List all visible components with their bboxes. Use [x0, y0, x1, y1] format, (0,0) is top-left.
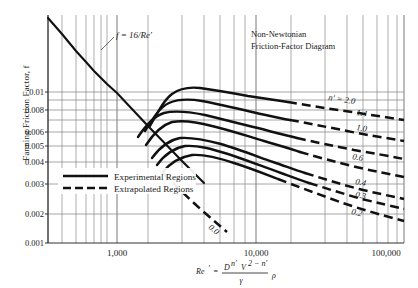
x-tick-label: 100,000 [371, 248, 401, 258]
chart-title-line2: Friction-Factor Diagram [251, 41, 336, 51]
x-axis-ticks: 1,000 10,000 100,000 [107, 248, 401, 258]
x-axis-formula: Re ′ = D n′ V 2 − n′ γ ρ [195, 259, 276, 285]
formula-numerator-D-exponent: n′ [231, 259, 237, 268]
formula-trailing-rho: ρ [271, 271, 276, 280]
curve-label-n-2-0: n′ = 2.0 [328, 92, 357, 106]
x-tick-label: 1,000 [107, 248, 128, 258]
formula-numerator-V-exponent: 2 − n′ [248, 259, 267, 268]
formula-equals: = [213, 267, 218, 276]
formula-denominator: γ [239, 276, 243, 285]
chart-canvas: 0.01 0.008 0.006 0.005 0.004 0.003 0.002… [0, 0, 418, 288]
y-axis-label: Fanning Friction Factor, f [21, 43, 31, 183]
y-tick-label: 0.01 [29, 87, 44, 97]
formula-numerator-V: V [241, 263, 247, 272]
curve-label-n-0-4: 0.4 [355, 176, 368, 188]
x-tick-label: 10,000 [244, 248, 269, 258]
curve-label-n-1-4: 1.4 [356, 107, 369, 119]
legend: Experimental Regions Extrapolated Region… [58, 168, 196, 194]
formula-lhs: Re [195, 267, 205, 276]
formula-lhs-prime: ′ [208, 264, 210, 273]
legend-label-extrapolated: Extrapolated Regions [114, 184, 194, 194]
laminar-annotation-group: f = 16/Re′ [101, 30, 153, 50]
y-tick-label: 0.001 [25, 238, 44, 248]
curve-label-n-0-2: 0.2 [351, 206, 364, 218]
grid-minor-vertical [62, 15, 397, 243]
laminar-annotation-label: f = 16/Re′ [116, 30, 153, 40]
friction-factor-figure: Fanning Friction Factor, f [0, 0, 418, 288]
formula-numerator-D: D [223, 263, 230, 272]
chart-title-line1: Non-Newtonian [251, 29, 307, 39]
legend-label-experimental: Experimental Regions [114, 172, 196, 182]
curve-label-n-0-3: 0.3 [355, 189, 367, 201]
chart-title: Non-Newtonian Friction-Factor Diagram [251, 29, 336, 51]
y-tick-label: 0.002 [25, 209, 44, 219]
